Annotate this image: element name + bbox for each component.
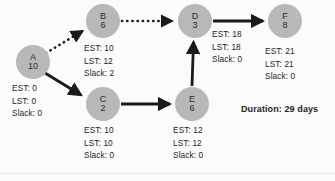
node-b[interactable]: B 6 bbox=[86, 4, 120, 38]
node-a[interactable]: A 10 bbox=[16, 45, 50, 79]
node-a-est: EST: 0 bbox=[12, 82, 42, 95]
node-d-est: EST: 18 bbox=[212, 28, 242, 41]
edge-a-to-c bbox=[45, 73, 81, 95]
node-a-lst: LST: 0 bbox=[12, 95, 42, 108]
node-c[interactable]: C 2 bbox=[86, 87, 120, 121]
node-c-est: EST: 10 bbox=[84, 124, 114, 137]
node-e-duration: 6 bbox=[189, 104, 194, 113]
node-f-duration: 8 bbox=[282, 21, 287, 30]
node-b-lst: LST: 12 bbox=[84, 55, 114, 68]
node-f[interactable]: F 8 bbox=[268, 4, 302, 38]
edge-e-to-d bbox=[192, 42, 194, 86]
node-f-lst: LST: 21 bbox=[265, 58, 295, 71]
node-b-slack: Slack: 2 bbox=[84, 67, 114, 80]
node-e-est: EST: 12 bbox=[173, 124, 203, 137]
node-a-duration: 10 bbox=[28, 62, 38, 71]
node-e-lst: LST: 12 bbox=[173, 137, 203, 150]
node-f-slack: Slack: 0 bbox=[265, 70, 295, 83]
node-c-lst: LST: 10 bbox=[84, 137, 114, 150]
node-d-stats: EST: 18 LST: 18 Slack: 0 bbox=[212, 28, 242, 66]
edge-a-to-b bbox=[46, 31, 83, 53]
node-f-stats: EST: 21 LST: 21 Slack: 0 bbox=[265, 45, 295, 83]
node-c-duration: 2 bbox=[100, 104, 105, 113]
node-a-stats: EST: 0 LST: 0 Slack: 0 bbox=[12, 82, 42, 120]
node-c-stats: EST: 10 LST: 10 Slack: 0 bbox=[84, 124, 114, 162]
node-b-duration: 6 bbox=[100, 21, 105, 30]
node-d-duration: 3 bbox=[192, 21, 197, 30]
node-e-slack: Slack: 0 bbox=[173, 149, 203, 162]
project-duration-label: Duration: 29 days bbox=[241, 104, 318, 114]
node-b-est: EST: 10 bbox=[84, 42, 114, 55]
node-d[interactable]: D 3 bbox=[178, 4, 212, 38]
node-e[interactable]: E 6 bbox=[175, 87, 209, 121]
network-diagram-canvas: A 10 EST: 0 LST: 0 Slack: 0 B 6 EST: 10 … bbox=[0, 0, 335, 181]
node-a-slack: Slack: 0 bbox=[12, 107, 42, 120]
node-f-est: EST: 21 bbox=[265, 45, 295, 58]
node-d-slack: Slack: 0 bbox=[212, 53, 242, 66]
bottom-divider bbox=[0, 173, 335, 174]
node-b-stats: EST: 10 LST: 12 Slack: 2 bbox=[84, 42, 114, 80]
node-d-lst: LST: 18 bbox=[212, 41, 242, 54]
node-c-slack: Slack: 0 bbox=[84, 149, 114, 162]
node-e-stats: EST: 12 LST: 12 Slack: 0 bbox=[173, 124, 203, 162]
